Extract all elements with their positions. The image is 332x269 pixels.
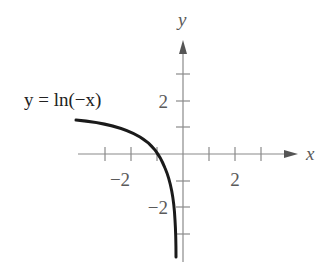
y-axis-label: y xyxy=(176,9,187,30)
x-tick-label-2: 2 xyxy=(230,169,240,190)
y-tick-label-2: 2 xyxy=(159,91,169,112)
chart-canvas: −2 2 2 −2 x y y = ln(−x) xyxy=(0,0,332,269)
equation-label: y = ln(−x) xyxy=(24,89,101,111)
x-axis-arrow-icon xyxy=(284,150,298,158)
x-axis-label: x xyxy=(305,143,315,164)
x-tick-label-neg2: −2 xyxy=(110,169,130,190)
y-axis-arrow-icon xyxy=(179,40,187,54)
y-tick-label-neg2: −2 xyxy=(148,197,168,218)
